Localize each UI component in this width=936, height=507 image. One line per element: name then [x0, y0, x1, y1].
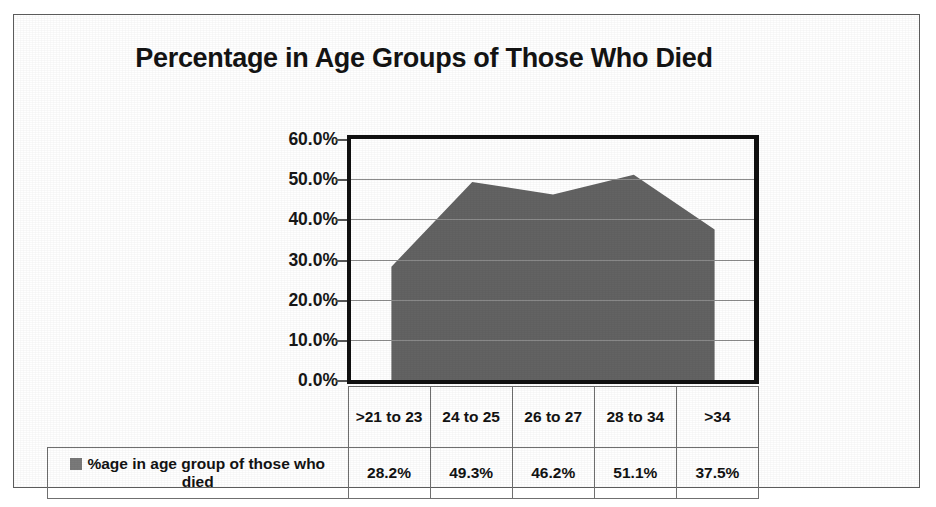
y-axis-tick-mark — [336, 300, 347, 302]
value-cell: 46.2% — [512, 448, 594, 499]
y-axis-tick-mark — [336, 139, 347, 141]
category-cell: 28 to 34 — [594, 387, 676, 448]
plot-area — [347, 135, 759, 384]
y-axis-tick-label: 50.0% — [218, 169, 338, 190]
category-cell: 26 to 27 — [512, 387, 594, 448]
value-cell: 37.5% — [676, 448, 758, 499]
gridline — [351, 179, 754, 180]
plot-inner — [351, 139, 754, 380]
gridline — [351, 260, 754, 261]
value-cell: 49.3% — [430, 448, 512, 499]
value-cell: 51.1% — [594, 448, 676, 499]
category-row-corner-cell — [48, 387, 349, 448]
y-axis-tick-label: 40.0% — [218, 209, 338, 230]
y-axis: 60.0%50.0%40.0%30.0%20.0%10.0%0.0% — [210, 135, 338, 384]
gridline — [351, 340, 754, 341]
legend-swatch-icon — [70, 458, 82, 470]
legend-series-cell: %age in age group of those who died — [48, 448, 349, 499]
value-row: %age in age group of those who died 28.2… — [48, 448, 759, 499]
y-axis-tick-mark — [336, 260, 347, 262]
y-axis-tick-mark — [336, 219, 347, 221]
y-axis-tick-label: 30.0% — [218, 249, 338, 270]
category-row: >21 to 2324 to 2526 to 2728 to 34>34 — [48, 387, 759, 448]
y-axis-tick-label: 20.0% — [218, 289, 338, 310]
y-axis-tick-mark — [336, 340, 347, 342]
chart-title: Percentage in Age Groups of Those Who Di… — [14, 43, 834, 74]
gridline — [351, 219, 754, 220]
legend-series-label: %age in age group of those who died — [87, 455, 325, 490]
y-axis-tick-label: 10.0% — [218, 329, 338, 350]
category-cell: 24 to 25 — [430, 387, 512, 448]
gridline — [351, 300, 754, 301]
category-cell: >34 — [676, 387, 758, 448]
scanned-page-frame: Percentage in Age Groups of Those Who Di… — [13, 14, 920, 488]
y-axis-tick-label: 60.0% — [218, 129, 338, 150]
value-cell: 28.2% — [348, 448, 430, 499]
category-cell: >21 to 23 — [348, 387, 430, 448]
y-axis-tick-mark — [336, 179, 347, 181]
y-axis-tick-mark — [336, 380, 347, 382]
chart-data-table: >21 to 2324 to 2526 to 2728 to 34>34 %ag… — [47, 386, 759, 499]
